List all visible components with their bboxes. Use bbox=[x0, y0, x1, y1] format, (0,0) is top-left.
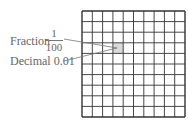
fraction-denominator: 100 bbox=[45, 42, 63, 53]
fraction-label: Fraction bbox=[10, 35, 50, 47]
decimal-label: Decimal 0.01 bbox=[10, 55, 75, 67]
fraction-numerator: 1 bbox=[45, 28, 63, 39]
fraction-leader-line bbox=[64, 39, 117, 48]
hundred-grid bbox=[82, 11, 185, 117]
fraction-value: 1 100 bbox=[45, 28, 63, 53]
shaded-cell bbox=[113, 43, 123, 54]
